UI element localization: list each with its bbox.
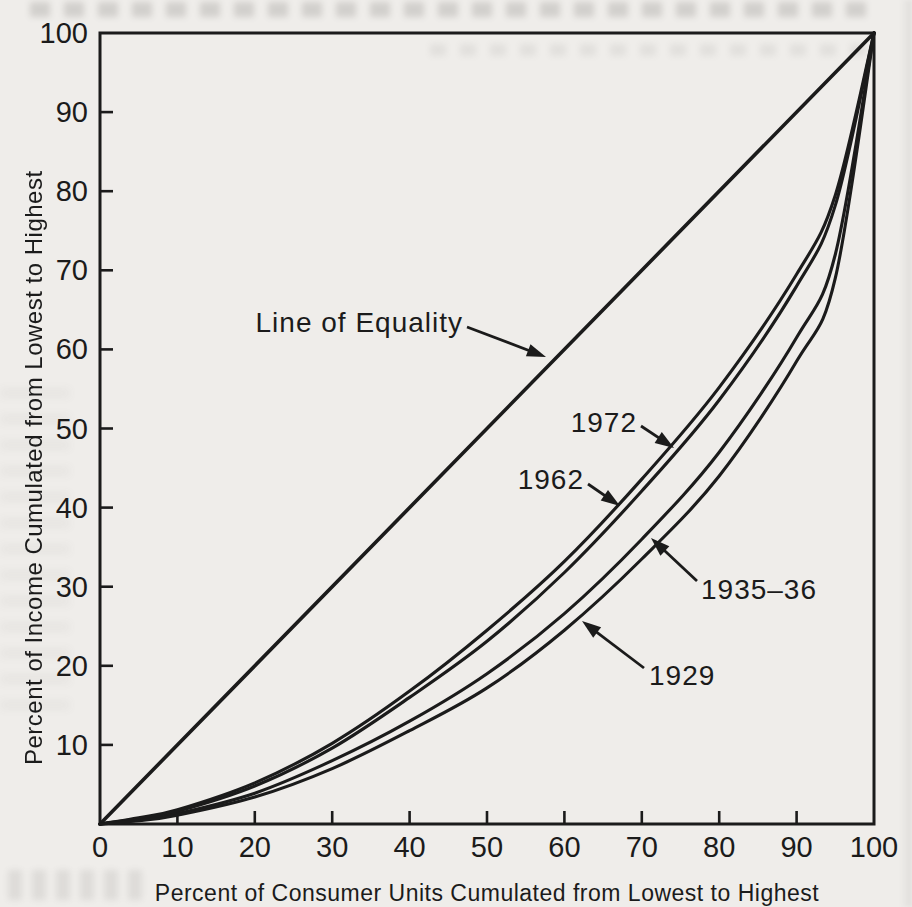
- y-tick-label: 90: [56, 96, 88, 128]
- annotation-arrowhead: [526, 344, 546, 357]
- x-tick-label: 90: [780, 831, 812, 863]
- x-tick-label: 10: [161, 831, 193, 863]
- x-tick-label: 60: [548, 831, 580, 863]
- x-tick-label: 40: [393, 831, 425, 863]
- x-axis-title: Percent of Consumer Units Cumulated from…: [100, 880, 874, 907]
- y-tick-label: 10: [56, 729, 88, 761]
- annotation-label: 1972: [571, 407, 637, 438]
- annotation-arrowhead: [655, 432, 674, 448]
- y-tick-label: 20: [56, 650, 88, 682]
- y-tick-label: 80: [56, 175, 88, 207]
- annotation-arrow-line: [590, 627, 644, 668]
- y-tick-label: 40: [56, 492, 88, 524]
- y-tick-label: 50: [56, 413, 88, 445]
- annotation-label: Line of Equality: [256, 307, 463, 338]
- annotation-arrowhead: [582, 621, 601, 638]
- series-line-of-equality: [100, 33, 874, 824]
- x-tick-label: 20: [239, 831, 271, 863]
- annotation-arrowhead: [601, 490, 620, 506]
- annotation-label: 1962: [518, 464, 584, 495]
- x-tick-label: 70: [626, 831, 658, 863]
- x-tick-label: 50: [471, 831, 503, 863]
- annotation-arrow-line: [467, 327, 537, 353]
- x-tick-label: 30: [316, 831, 348, 863]
- x-tick-label: 100: [850, 831, 898, 863]
- annotation-label: 1935–36: [701, 574, 817, 605]
- annotation-label: 1929: [649, 660, 715, 691]
- y-tick-label: 30: [56, 571, 88, 603]
- y-axis-title: Percent of Income Cumulated from Lowest …: [20, 140, 56, 796]
- lorenz-curve-chart: 0102030405060708090100102030405060708090…: [0, 0, 912, 907]
- y-tick-label: 70: [56, 254, 88, 286]
- x-tick-label: 0: [92, 831, 108, 863]
- x-tick-label: 80: [703, 831, 735, 863]
- y-tick-label: 100: [40, 17, 88, 49]
- scanned-book-page: 0102030405060708090100102030405060708090…: [0, 0, 912, 907]
- y-tick-label: 60: [56, 333, 88, 365]
